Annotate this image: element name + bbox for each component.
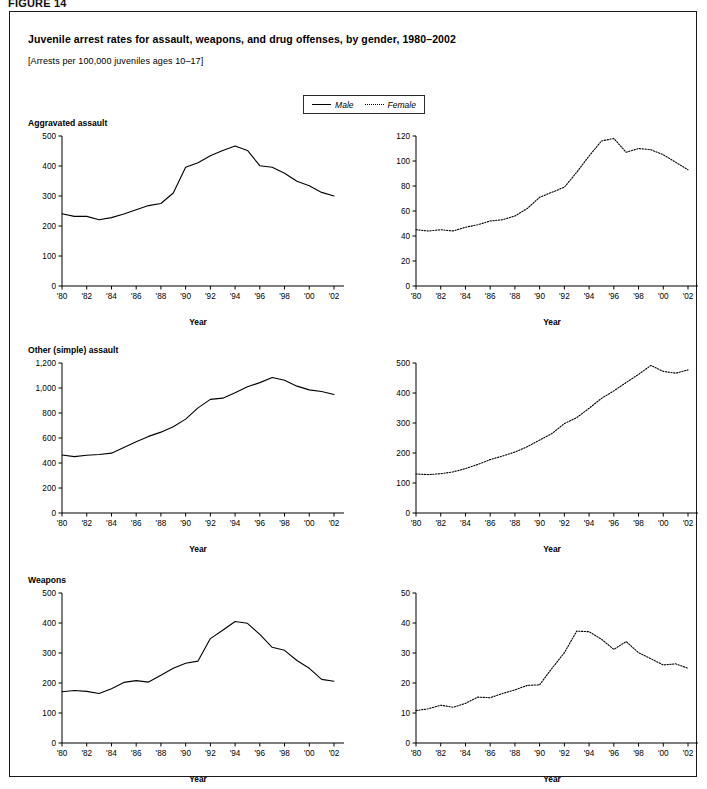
xtick-label: '92	[205, 519, 216, 528]
ytick-label: 30	[401, 649, 411, 658]
xtick-label: '88	[156, 749, 167, 758]
plot-area-weapons-male: 0100200300400500'80'82'84'86'88'90'92'94…	[28, 587, 348, 773]
xtick-label: '96	[254, 749, 265, 758]
xtick-label: '96	[254, 519, 265, 528]
xtick-label: '88	[510, 519, 521, 528]
series-line-female	[416, 139, 688, 232]
ytick-label: 120	[396, 132, 410, 141]
figure-frame: Juvenile arrest rates for assault, weapo…	[9, 11, 697, 777]
figure-number-label: FIGURE 14	[8, 0, 67, 9]
x-axis-title-weapons-male: Year	[62, 774, 334, 784]
xtick-label: '98	[633, 519, 644, 528]
ytick-label: 500	[42, 589, 56, 598]
ytick-label: 0	[405, 282, 410, 291]
xtick-label: '88	[510, 749, 521, 758]
xtick-label: '98	[633, 292, 644, 301]
ytick-label: 600	[42, 434, 56, 443]
xtick-label: '88	[156, 292, 167, 301]
chart-heading-other-simple-assault-male: Other (simple) assault	[28, 345, 118, 355]
x-axis-title-other-simple-assault-male: Year	[62, 544, 334, 554]
legend-label-female: Female	[388, 100, 416, 110]
ytick-label: 0	[51, 509, 56, 518]
xtick-label: '84	[460, 749, 471, 758]
series-line-female	[416, 631, 688, 711]
ytick-label: 10	[401, 709, 411, 718]
ytick-label: 400	[396, 389, 410, 398]
ytick-label: 40	[401, 619, 411, 628]
xtick-label: '90	[180, 749, 191, 758]
ytick-label: 400	[42, 162, 56, 171]
xtick-label: '82	[81, 749, 92, 758]
xtick-label: '94	[584, 519, 595, 528]
plot-area-weapons-female: 01020304050'80'82'84'86'88'90'92'94'96'9…	[382, 587, 702, 773]
ytick-label: 0	[51, 282, 56, 291]
xtick-label: '02	[329, 292, 340, 301]
ytick-label: 40	[401, 232, 411, 241]
xtick-label: '94	[230, 749, 241, 758]
figure-title: Juvenile arrest rates for assault, weapo…	[28, 33, 456, 45]
xtick-label: '86	[131, 292, 142, 301]
chart-legend: Male Female	[303, 95, 425, 114]
xtick-label: '80	[411, 749, 422, 758]
xtick-label: '80	[411, 292, 422, 301]
figure-units-note: [Arrests per 100,000 juveniles ages 10–1…	[28, 56, 203, 66]
xtick-label: '02	[329, 519, 340, 528]
ytick-label: 100	[396, 479, 410, 488]
x-axis-title-weapons-female: Year	[416, 774, 688, 784]
chart-heading-aggravated-assault-male: Aggravated assault	[28, 118, 107, 128]
ytick-label: 100	[42, 252, 56, 261]
xtick-label: '84	[106, 292, 117, 301]
xtick-label: '02	[329, 749, 340, 758]
ytick-label: 800	[42, 409, 56, 418]
ytick-label: 200	[42, 679, 56, 688]
xtick-label: '80	[57, 292, 68, 301]
xtick-label: '92	[205, 749, 216, 758]
xtick-label: '94	[584, 749, 595, 758]
xtick-label: '98	[633, 749, 644, 758]
ytick-label: 200	[396, 449, 410, 458]
ytick-label: 100	[396, 157, 410, 166]
ytick-label: 0	[405, 509, 410, 518]
xtick-label: '90	[534, 749, 545, 758]
ytick-label: 80	[401, 182, 411, 191]
xtick-label: '02	[683, 519, 694, 528]
xtick-label: '94	[584, 292, 595, 301]
ytick-label: 300	[42, 192, 56, 201]
xtick-label: '92	[559, 749, 570, 758]
xtick-label: '92	[559, 292, 570, 301]
xtick-label: '82	[81, 519, 92, 528]
xtick-label: '02	[683, 292, 694, 301]
ytick-label: 100	[42, 709, 56, 718]
ytick-label: 60	[401, 207, 411, 216]
xtick-label: '96	[608, 749, 619, 758]
xtick-label: '86	[485, 292, 496, 301]
xtick-label: '94	[230, 519, 241, 528]
x-axis-title-aggravated-assault-male: Year	[62, 317, 334, 327]
ytick-label: 0	[405, 739, 410, 748]
legend-label-male: Male	[335, 100, 353, 110]
ytick-label: 300	[396, 419, 410, 428]
xtick-label: '84	[460, 292, 471, 301]
xtick-label: '92	[559, 519, 570, 528]
xtick-label: '86	[131, 519, 142, 528]
legend-line-solid-icon	[312, 104, 331, 105]
xtick-label: '90	[534, 519, 545, 528]
ytick-label: 50	[401, 589, 411, 598]
xtick-label: '82	[435, 292, 446, 301]
x-axis-title-aggravated-assault-female: Year	[416, 317, 688, 327]
xtick-label: '82	[435, 749, 446, 758]
xtick-label: '86	[485, 749, 496, 758]
legend-line-dotted-icon	[365, 104, 384, 105]
ytick-label: 500	[396, 359, 410, 368]
xtick-label: '00	[658, 292, 669, 301]
xtick-label: '86	[485, 519, 496, 528]
ytick-label: 400	[42, 459, 56, 468]
plot-area-aggravated-assault-male: 0100200300400500'80'82'84'86'88'90'92'94…	[28, 130, 348, 316]
xtick-label: '88	[510, 292, 521, 301]
xtick-label: '88	[156, 519, 167, 528]
xtick-label: '84	[460, 519, 471, 528]
xtick-label: '86	[131, 749, 142, 758]
xtick-label: '98	[279, 519, 290, 528]
xtick-label: '80	[57, 749, 68, 758]
plot-area-other-simple-assault-female: 0100200300400500'80'82'84'86'88'90'92'94…	[382, 357, 702, 543]
